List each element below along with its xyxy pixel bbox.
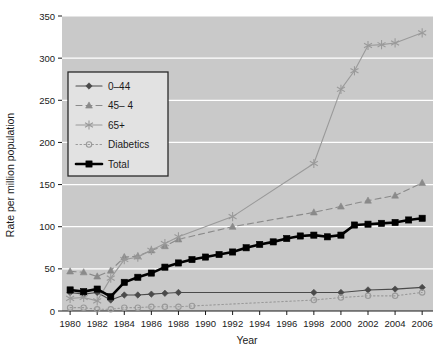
x-tick-label: 1996 — [276, 318, 297, 329]
x-tick-label: 2002 — [357, 318, 378, 329]
x-tick-label: 2004 — [385, 318, 406, 329]
legend-label-1: 45– 4 — [108, 100, 133, 111]
x-tick-label: 1988 — [168, 318, 189, 329]
y-tick-label: 200 — [39, 137, 55, 148]
chart-svg: 050100150200250300350 198019821984198619… — [0, 0, 441, 350]
x-tick-label: 2000 — [330, 318, 351, 329]
legend-label-3: Diabetics — [108, 139, 149, 150]
x-tick-label: 1998 — [303, 318, 324, 329]
x-tick-label: 1984 — [114, 318, 135, 329]
line-chart: 050100150200250300350 198019821984198619… — [0, 0, 441, 350]
x-tick-label: 1986 — [141, 318, 162, 329]
x-tick-label: 1982 — [87, 318, 108, 329]
x-tick-label: 1980 — [60, 318, 81, 329]
y-tick-label: 150 — [39, 179, 55, 190]
legend-label-0: 0–44 — [108, 81, 131, 92]
legend-label-4: Total — [108, 159, 129, 170]
chart-legend: 0–4445– 465+DiabeticsTotal — [68, 72, 168, 176]
x-tick-label: 1990 — [195, 318, 216, 329]
x-tick-label: 1992 — [222, 318, 243, 329]
y-tick-label: 300 — [39, 53, 55, 64]
x-tick-label: 2006 — [412, 318, 433, 329]
y-tick-label: 250 — [39, 95, 55, 106]
legend-label-2: 65+ — [108, 120, 125, 131]
y-tick-label: 100 — [39, 221, 55, 232]
y-tick-label: 50 — [44, 263, 55, 274]
x-tick-label: 1994 — [249, 318, 270, 329]
x-axis-label: Year — [236, 334, 258, 346]
y-tick-label: 0 — [50, 306, 55, 317]
y-tick-label: 350 — [39, 11, 55, 22]
y-axis-label: Rate per million population — [4, 113, 16, 237]
